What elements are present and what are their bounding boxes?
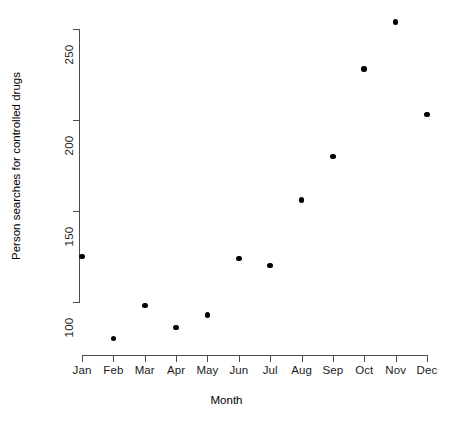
data-point [173, 325, 179, 331]
y-axis-tick-label: 150 [64, 227, 76, 247]
x-axis-tick [239, 356, 240, 362]
data-point [111, 336, 117, 342]
data-point [236, 256, 242, 262]
x-axis-tick [302, 356, 303, 362]
x-axis-tick-label: Sep [323, 364, 344, 377]
x-axis-tick [427, 356, 428, 362]
x-axis-tick [113, 356, 114, 362]
x-axis-tick [396, 356, 397, 362]
y-axis-title: Person searches for controlled drugs [10, 72, 22, 260]
x-axis-tick [176, 356, 177, 362]
x-axis-tick-label: Mar [135, 364, 155, 377]
x-axis-tick [207, 356, 208, 362]
y-axis-tick [73, 302, 79, 303]
x-axis-tick-label: Jan [73, 364, 92, 377]
y-axis-tick-label: 200 [64, 136, 76, 156]
data-point [361, 66, 367, 72]
data-point [142, 303, 148, 309]
x-axis-tick-label: Jun [229, 364, 248, 377]
x-axis-tick [333, 356, 334, 362]
data-point [205, 312, 211, 318]
x-axis-tick-label: Apr [167, 364, 185, 377]
data-point [79, 254, 85, 260]
x-axis-tick-label: Oct [355, 364, 373, 377]
y-axis-line [79, 29, 80, 303]
data-point [424, 112, 430, 118]
x-axis-title: Month [0, 394, 453, 407]
data-point [299, 197, 305, 203]
x-axis-tick [364, 356, 365, 362]
y-axis-tick [73, 120, 79, 121]
data-point [330, 154, 336, 160]
x-axis-tick-label: Aug [291, 364, 312, 377]
x-axis-line [82, 355, 428, 356]
x-axis-tick-label: Jul [263, 364, 278, 377]
data-point [267, 263, 273, 269]
y-axis-tick-label: 100 [64, 318, 76, 338]
x-axis-tick-label: Feb [103, 364, 123, 377]
data-point [393, 19, 399, 25]
y-axis-tick-label: 250 [64, 45, 76, 65]
x-axis-tick [82, 356, 83, 362]
y-axis-tick [73, 211, 79, 212]
x-axis-tick-label: Dec [417, 364, 438, 377]
x-axis-tick-label: May [196, 364, 218, 377]
x-axis-tick-label: Nov [385, 364, 406, 377]
x-axis-tick [145, 356, 146, 362]
scatter-plot-figure: 100150200250 JanFebMarAprMayJunJulAugSep… [0, 0, 453, 422]
x-axis-tick [270, 356, 271, 362]
y-axis-tick [73, 29, 79, 30]
